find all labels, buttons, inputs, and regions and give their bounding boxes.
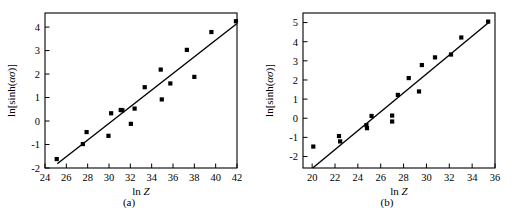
x-tick-label-b: 36 bbox=[490, 172, 501, 183]
data-point-a bbox=[81, 142, 85, 146]
data-point-b bbox=[390, 119, 394, 123]
panel-b-caption: (b) bbox=[258, 196, 516, 208]
x-tick-label-a: 30 bbox=[104, 172, 115, 183]
data-point-a bbox=[55, 157, 59, 161]
data-point-a bbox=[159, 67, 163, 71]
data-point-a bbox=[109, 111, 113, 115]
x-tick-label-a: 34 bbox=[146, 172, 157, 183]
x-tick-label-a: 26 bbox=[61, 172, 72, 183]
data-point-a bbox=[234, 19, 238, 23]
y-tick-label-a: -2 bbox=[31, 163, 40, 174]
panel-a-caption: (a) bbox=[0, 196, 258, 208]
data-point-b bbox=[449, 52, 453, 56]
x-tick-label-a: 28 bbox=[82, 172, 93, 183]
plot-b-svg: 202224262830323436-2-1012345ln Zln[sinh(… bbox=[258, 0, 516, 213]
x-tick-label-a: 38 bbox=[189, 172, 200, 183]
y-tick-label-a: 1 bbox=[35, 92, 40, 103]
data-point-b bbox=[396, 93, 400, 97]
x-tick-label-b: 34 bbox=[467, 172, 478, 183]
panel-a: 24262830323436384042-2-101234ln Zln[sinh… bbox=[0, 0, 258, 213]
x-tick-label-a: 24 bbox=[40, 172, 51, 183]
y-tick-label-b: 0 bbox=[293, 113, 298, 124]
data-point-b bbox=[486, 20, 490, 24]
data-point-a bbox=[106, 134, 110, 138]
data-point-b bbox=[369, 114, 373, 118]
data-point-b bbox=[433, 55, 437, 59]
data-point-a bbox=[85, 130, 89, 134]
y-tick-label-a: 2 bbox=[35, 69, 40, 80]
data-point-a bbox=[185, 48, 189, 52]
y-axis-title-b: ln[sinh(ασ)] bbox=[263, 64, 276, 117]
figure-two-panel-scatter: 24262830323436384042-2-101234ln Zln[sinh… bbox=[0, 0, 516, 213]
y-tick-label-a: 3 bbox=[35, 45, 40, 56]
x-tick-label-a: 36 bbox=[168, 172, 179, 183]
y-tick-label-a: -1 bbox=[31, 139, 40, 150]
data-point-b bbox=[365, 126, 369, 130]
data-point-a bbox=[143, 85, 147, 89]
data-point-a bbox=[168, 81, 172, 85]
data-point-a bbox=[160, 97, 164, 101]
x-tick-label-a: 42 bbox=[232, 172, 243, 183]
data-point-b bbox=[407, 76, 411, 80]
data-point-b bbox=[311, 144, 315, 148]
y-tick-label-b: 4 bbox=[293, 37, 299, 48]
plot-a-svg: 24262830323436384042-2-101234ln Zln[sinh… bbox=[0, 0, 258, 213]
data-point-b bbox=[459, 35, 463, 39]
x-tick-label-b: 32 bbox=[444, 172, 455, 183]
x-tick-label-a: 40 bbox=[210, 172, 221, 183]
y-tick-label-b: 2 bbox=[293, 75, 298, 86]
regression-line-b bbox=[313, 23, 489, 168]
y-tick-label-a: 4 bbox=[35, 22, 41, 33]
y-tick-label-b: -2 bbox=[289, 151, 298, 162]
data-point-b bbox=[338, 139, 342, 143]
y-tick-label-a: 0 bbox=[35, 116, 40, 127]
data-point-b bbox=[420, 63, 424, 67]
y-tick-label-b: 5 bbox=[293, 17, 298, 28]
data-point-a bbox=[120, 108, 124, 112]
data-point-a bbox=[192, 75, 196, 79]
x-tick-label-b: 24 bbox=[353, 172, 364, 183]
data-point-b bbox=[390, 113, 394, 117]
x-tick-label-b: 26 bbox=[375, 172, 386, 183]
data-point-b bbox=[337, 134, 341, 138]
x-tick-label-b: 20 bbox=[307, 172, 318, 183]
plot-frame-a bbox=[45, 13, 237, 168]
data-point-a bbox=[209, 30, 213, 34]
y-tick-label-b: -1 bbox=[289, 132, 298, 143]
data-point-b bbox=[417, 89, 421, 93]
data-point-a bbox=[133, 106, 137, 110]
x-tick-label-b: 22 bbox=[330, 172, 341, 183]
x-tick-label-a: 32 bbox=[125, 172, 136, 183]
y-tick-label-b: 1 bbox=[293, 94, 298, 105]
panel-b: 202224262830323436-2-1012345ln Zln[sinh(… bbox=[258, 0, 516, 213]
data-point-a bbox=[129, 122, 133, 126]
plot-frame-b bbox=[303, 13, 495, 168]
y-tick-label-b: 3 bbox=[293, 56, 298, 67]
x-tick-label-b: 30 bbox=[421, 172, 432, 183]
y-axis-title-a: ln[sinh(ασ)] bbox=[5, 64, 18, 117]
x-tick-label-b: 28 bbox=[398, 172, 409, 183]
